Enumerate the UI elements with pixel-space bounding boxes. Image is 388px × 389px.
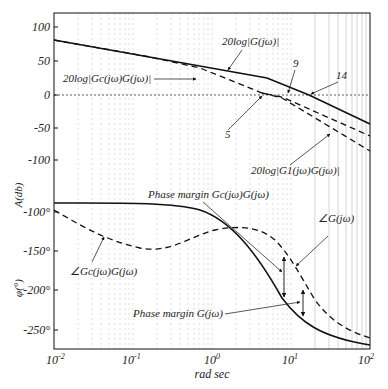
x-tick-1e1: 101 [282, 352, 298, 367]
mag-G1G-label: 20log|G1(jω)G(jω)| [251, 164, 340, 177]
phase-tick-minus-100: -100° [23, 205, 50, 219]
label-14: 14 [336, 69, 348, 81]
grid-vertical [78, 13, 366, 349]
phase-axis-label: φ(°) [12, 279, 25, 297]
bode-plot-figure: 100 50 0 -50 -100 -100° -150° -200° -250… [0, 0, 388, 389]
x-tick-1e0: 100 [204, 352, 220, 367]
pm-GcG-label: Phase margin Gc(jω)G(jω) [147, 188, 269, 201]
label-9: 9 [293, 57, 299, 69]
x-tick-1e2: 102 [358, 352, 374, 367]
pm-G-label: Phase margin G(jω) [132, 307, 223, 320]
mag-tick-0: 0 [44, 88, 50, 102]
phase-tick-minus-150: -150° [23, 244, 50, 258]
x-tick-1e-2: 10-2 [46, 352, 65, 367]
mag-tick-50: 50 [38, 54, 50, 68]
mag-tick-100: 100 [32, 20, 50, 34]
mag-G1G-curve [262, 93, 370, 151]
mag-tick-minus-50: -50 [34, 121, 50, 135]
phase-axis: -100° -150° -200° -250° [23, 205, 58, 337]
x-axis: 10-2 10-1 100 101 102 rad sec [46, 352, 374, 381]
mag-G-label: 20log|G(jω)| [222, 35, 279, 48]
x-tick-1e-1: 10-1 [122, 352, 141, 367]
magnitude-axis-label: A(db) [12, 182, 25, 208]
x-axis-label: rad sec [195, 367, 231, 381]
phase-G-label: ∠G(jω) [318, 212, 354, 225]
mag-GcG-label: 20log|Gc(jω)G(jω)| [63, 72, 151, 85]
phase-tick-minus-250: -250° [23, 323, 50, 337]
phase-tick-minus-200: -200° [23, 283, 50, 297]
phase-GcG-label: ∠Gc(jω)G(jω) [70, 265, 137, 278]
mag-tick-minus-100: -100 [28, 153, 50, 167]
